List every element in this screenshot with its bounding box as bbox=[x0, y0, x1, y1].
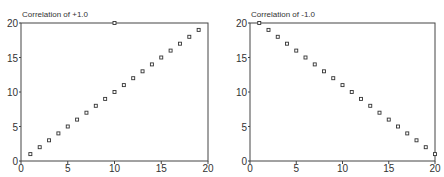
data-point bbox=[434, 153, 437, 156]
x-tick-label: 20 bbox=[429, 163, 441, 174]
chart-positive-correlation: Correlation of +1.00510152005101520 bbox=[7, 10, 214, 174]
y-tick-label: 15 bbox=[7, 53, 19, 64]
data-point bbox=[85, 111, 88, 114]
data-point bbox=[276, 35, 279, 38]
data-point bbox=[360, 97, 363, 100]
data-point bbox=[286, 42, 289, 45]
data-point bbox=[267, 28, 270, 31]
data-point bbox=[387, 118, 390, 121]
data-point bbox=[66, 125, 69, 128]
y-tick-label: 0 bbox=[12, 156, 18, 167]
x-tick-label: 20 bbox=[202, 163, 214, 174]
x-tick-label: 0 bbox=[18, 163, 24, 174]
data-point bbox=[406, 132, 409, 135]
data-point bbox=[341, 84, 344, 87]
data-point bbox=[76, 118, 79, 121]
data-point bbox=[415, 139, 418, 142]
y-tick-label: 5 bbox=[12, 122, 18, 133]
data-point bbox=[295, 49, 298, 52]
data-point bbox=[160, 56, 163, 59]
x-tick-label: 5 bbox=[65, 163, 71, 174]
data-point bbox=[350, 91, 353, 94]
data-point bbox=[113, 22, 116, 25]
x-tick-label: 15 bbox=[383, 163, 395, 174]
data-point bbox=[369, 104, 372, 107]
y-tick-label: 20 bbox=[7, 18, 19, 29]
data-point bbox=[38, 146, 41, 149]
chart-title: Correlation of -1.0 bbox=[251, 10, 316, 19]
figure: Correlation of +1.00510152005101520 Corr… bbox=[0, 0, 444, 177]
data-point bbox=[323, 70, 326, 73]
data-point bbox=[29, 153, 32, 156]
data-point bbox=[178, 42, 181, 45]
y-tick-label: 20 bbox=[236, 18, 248, 29]
plot-frame bbox=[250, 23, 435, 161]
data-point bbox=[258, 22, 261, 25]
data-point bbox=[94, 104, 97, 107]
data-point bbox=[397, 125, 400, 128]
data-point bbox=[378, 111, 381, 114]
x-tick-label: 5 bbox=[293, 163, 299, 174]
data-point bbox=[113, 91, 116, 94]
data-point bbox=[57, 132, 60, 135]
data-point bbox=[313, 63, 316, 66]
data-point bbox=[304, 56, 307, 59]
data-point bbox=[188, 35, 191, 38]
y-tick-label: 5 bbox=[241, 122, 247, 133]
x-tick-label: 0 bbox=[247, 163, 253, 174]
data-point bbox=[197, 28, 200, 31]
y-tick-label: 10 bbox=[7, 87, 19, 98]
chart-negative-correlation: Correlation of -1.00510152005101520 bbox=[236, 10, 441, 174]
data-point bbox=[141, 70, 144, 73]
data-point bbox=[332, 77, 335, 80]
y-tick-label: 10 bbox=[236, 87, 248, 98]
y-tick-label: 0 bbox=[241, 156, 247, 167]
data-point bbox=[48, 139, 51, 142]
data-point bbox=[122, 84, 125, 87]
data-point bbox=[424, 146, 427, 149]
y-tick-label: 15 bbox=[236, 53, 248, 64]
data-point bbox=[104, 97, 107, 100]
data-point bbox=[169, 49, 172, 52]
x-tick-label: 10 bbox=[337, 163, 349, 174]
x-tick-label: 10 bbox=[109, 163, 121, 174]
x-tick-label: 15 bbox=[156, 163, 168, 174]
chart-title: Correlation of +1.0 bbox=[22, 10, 89, 19]
data-point bbox=[150, 63, 153, 66]
data-point bbox=[132, 77, 135, 80]
